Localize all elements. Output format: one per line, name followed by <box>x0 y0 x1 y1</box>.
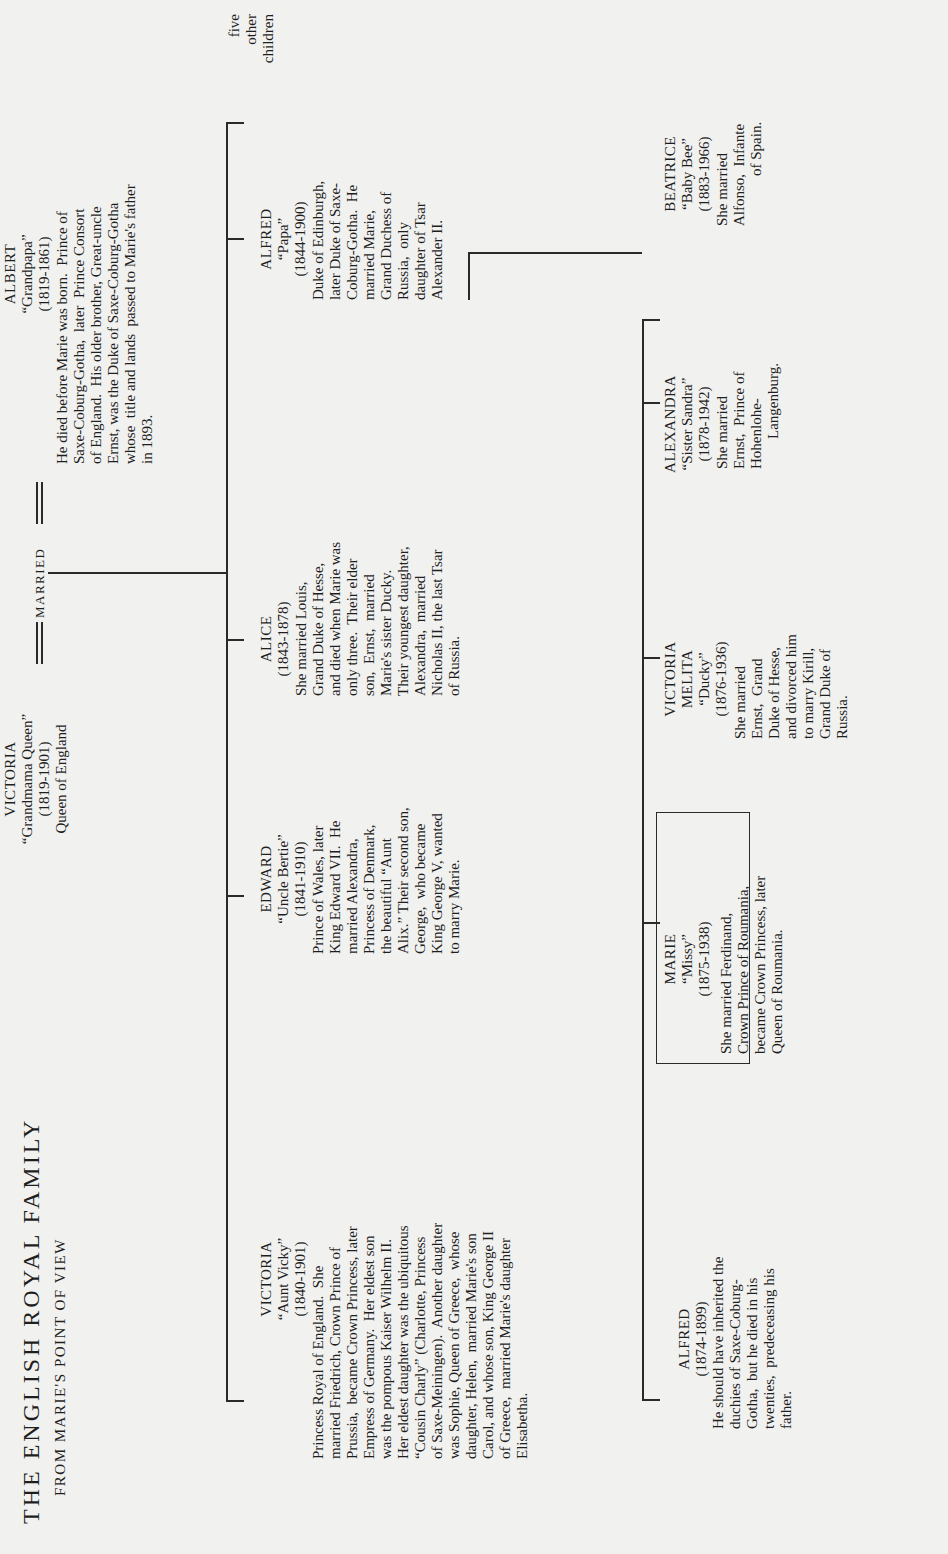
tick-victoria-vicky <box>226 1401 244 1403</box>
chart-title: THE ENGLISH ROYAL FAMILY <box>18 1118 45 1524</box>
person-beatrice: BEATRICE “Baby Bee” (1883-1966) <box>662 94 713 254</box>
victoria-vicky-description: Princess Royal of England. She married F… <box>310 1079 531 1459</box>
person-victoria-queen: VICTORIA “Grandmama Queen” (1819-1901) Q… <box>2 684 70 874</box>
person-nickname: “Missy” <box>679 854 696 1064</box>
generation2-bar <box>226 124 228 1402</box>
person-marie: MARIE “Missy” (1875-1938) <box>662 854 713 1064</box>
person-nickname: “Aunt Vicky” <box>275 1099 292 1459</box>
person-dates: (1819-1861) <box>36 174 53 374</box>
person-alfred-papa: ALFRED “Papa” (1844-1900) <box>258 139 309 339</box>
alice-description: She married Louis, Grand Duke of Hesse, … <box>293 456 463 696</box>
tick-alfred-papa <box>226 239 244 241</box>
person-alice: ALICE (1843-1878) <box>258 539 292 739</box>
person-name: ALEXANDRA <box>662 349 679 499</box>
person-dates: (1875-1938) <box>696 854 713 1064</box>
tick-edward <box>226 896 244 898</box>
alfred-papa-drop-join <box>468 252 470 300</box>
person-name: VICTORIA <box>662 604 679 754</box>
marriage-line-left-bottom <box>41 622 43 664</box>
person-alfred-young: ALFRED (1874-1899) <box>676 1224 710 1454</box>
tick-alexandra <box>642 403 660 405</box>
person-albert: ALBERT “Grandpapa” (1819-1861) <box>2 174 53 374</box>
person-nickname: “Papa” <box>275 139 292 339</box>
person-dates: (1841-1910) <box>292 759 309 999</box>
person-nickname: “Ducky” <box>696 604 713 754</box>
marriage-line-left-top <box>36 622 38 664</box>
tick-alfred-young <box>642 1400 660 1402</box>
family-tree-page: THE ENGLISH ROYAL FAMILY FROM MARIE'S PO… <box>0 0 948 1554</box>
person-nickname: “Sister Sandra” <box>679 349 696 499</box>
person-name: ALFRED <box>258 139 275 339</box>
person-name: ALBERT <box>2 174 19 374</box>
person-dates: (1844-1900) <box>292 139 309 339</box>
tick-alice <box>226 640 244 642</box>
person-dates: (1819-1901) <box>36 684 53 874</box>
person-name: ALICE <box>258 539 275 739</box>
person-dates: (1874-1899) <box>693 1224 710 1454</box>
albert-description: He died before Marie was born. Prince of… <box>54 104 156 464</box>
tick-beatrice <box>642 320 660 322</box>
person-nickname: “Uncle Bertie” <box>275 759 292 999</box>
person-nickname: “Grandmama Queen” <box>19 684 36 874</box>
victoria-melita-description: She married Ernst, Grand Duke of Hesse, … <box>732 579 851 739</box>
person-dates: (1883-1966) <box>696 94 713 254</box>
person-title: Queen of England <box>53 684 70 874</box>
chart-subtitle: FROM MARIE'S POINT OF VIEW <box>52 1238 69 1496</box>
person-name: BEATRICE <box>662 94 679 254</box>
generation3-bar <box>642 321 644 1401</box>
tick-victoria-melita <box>642 658 660 660</box>
person-name: MARIE <box>662 854 679 1064</box>
beatrice-description: She married Alfonso, Infante of Spain. <box>714 66 765 226</box>
marriage-line-right-top <box>36 482 38 524</box>
married-label: MARRIED <box>32 548 48 618</box>
person-name: EDWARD <box>258 759 275 999</box>
alfred-young-description: He should have inherited the duchies of … <box>710 1179 795 1429</box>
person-dates: (1878-1942) <box>696 349 713 499</box>
person-name: VICTORIA <box>258 1099 275 1459</box>
person-name: ALFRED <box>676 1224 693 1454</box>
person-victoria-melita: VICTORIA MELITA “Ducky” (1876-1936) <box>662 604 730 754</box>
marriage-drop-line <box>48 573 226 575</box>
person-edward: EDWARD “Uncle Bertie” (1841-1910) <box>258 759 309 999</box>
person-nickname: “Grandpapa” <box>19 174 36 374</box>
marriage-line-right-bottom <box>41 482 43 524</box>
tick-other-children <box>226 123 244 125</box>
person-dates: (1843-1878) <box>275 539 292 739</box>
alfred-papa-drop-line <box>468 253 642 255</box>
person-nickname: “Baby Bee” <box>679 94 696 254</box>
person-name-2: MELITA <box>679 604 696 754</box>
alfred-papa-description: Duke of Edinburgh, later Duke of Saxe- C… <box>310 100 446 300</box>
alexandra-description: She married Ernst, Prince of Hohenlohe- … <box>714 329 782 469</box>
other-children-note: five other children <box>226 14 277 104</box>
person-name: VICTORIA <box>2 684 19 874</box>
marie-description: She married Ferdinand, Crown Prince of R… <box>718 814 786 1054</box>
person-alexandra: ALEXANDRA “Sister Sandra” (1878-1942) <box>662 349 713 499</box>
person-dates: (1840-1901) <box>292 1099 309 1459</box>
edward-description: Prince of Wales, later King Edward VII. … <box>310 714 463 954</box>
person-dates: (1876-1936) <box>713 604 730 754</box>
person-victoria-vicky: VICTORIA “Aunt Vicky” (1840-1901) <box>258 1099 309 1459</box>
